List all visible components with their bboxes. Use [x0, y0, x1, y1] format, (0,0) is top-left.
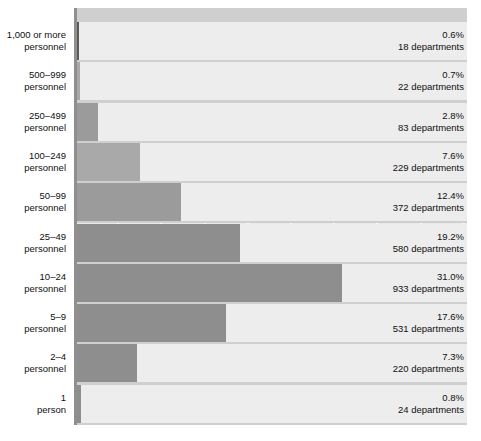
value-departments: 83 departments	[398, 122, 464, 134]
value-departments: 372 departments	[393, 202, 464, 214]
bar-row: 5–9personnel17.6%531 departments	[0, 304, 481, 342]
category-label-line2: personnel	[24, 283, 66, 295]
value-label: 0.7%22 departments	[398, 62, 464, 100]
bar-row: 10–24personnel31.0%933 departments	[0, 264, 481, 302]
category-label-line2: personnel	[24, 323, 66, 335]
category-label-line1: 25–49	[40, 231, 66, 243]
category-label: 1,000 or morepersonnel	[0, 22, 66, 60]
value-departments: 531 departments	[393, 323, 464, 335]
row-band	[74, 423, 467, 425]
value-label: 0.8%24 departments	[398, 385, 464, 423]
bar	[74, 103, 98, 141]
bar-row: 100–249personnel7.6%229 departments	[0, 143, 481, 181]
category-label-line2: personnel	[24, 363, 66, 375]
bar-row: 2–4personnel7.3%220 departments	[0, 344, 481, 382]
bar-row: 250–499personnel2.8%83 departments	[0, 103, 481, 141]
row-band	[74, 8, 467, 22]
value-departments: 933 departments	[393, 283, 464, 295]
bar	[74, 224, 240, 262]
category-label: 1person	[0, 385, 66, 423]
value-percent: 0.7%	[442, 69, 464, 81]
bar	[74, 344, 137, 382]
value-percent: 0.8%	[442, 392, 464, 404]
category-label-line1: 1	[61, 392, 66, 404]
bar-row: 1person0.8%24 departments	[0, 385, 481, 423]
category-label-line2: personnel	[24, 122, 66, 134]
y-axis-line	[74, 8, 77, 425]
value-label: 7.3%220 departments	[393, 344, 464, 382]
category-label-line1: 1,000 or more	[7, 29, 66, 41]
value-label: 7.6%229 departments	[393, 143, 464, 181]
value-label: 2.8%83 departments	[398, 103, 464, 141]
bar	[74, 264, 342, 302]
category-label-line2: personnel	[24, 81, 66, 93]
value-label: 31.0%933 departments	[393, 264, 464, 302]
category-label: 500–999personnel	[0, 62, 66, 100]
category-label-line1: 500–999	[29, 69, 66, 81]
value-percent: 2.8%	[442, 110, 464, 122]
category-label-line2: personnel	[24, 243, 66, 255]
category-label-line1: 250–499	[29, 110, 66, 122]
value-percent: 31.0%	[437, 271, 464, 283]
category-label-line1: 10–24	[40, 271, 66, 283]
category-label-line1: 50–99	[40, 190, 66, 202]
category-label-line2: personnel	[24, 202, 66, 214]
bar	[74, 183, 181, 221]
value-label: 12.4%372 departments	[393, 183, 464, 221]
category-label-line2: personnel	[24, 162, 66, 174]
value-departments: 580 departments	[393, 243, 464, 255]
value-label: 0.6%18 departments	[398, 22, 464, 60]
bar	[74, 143, 140, 181]
bar-row: 50–99personnel12.4%372 departments	[0, 183, 481, 221]
category-label: 50–99personnel	[0, 183, 66, 221]
category-label: 250–499personnel	[0, 103, 66, 141]
category-label: 10–24personnel	[0, 264, 66, 302]
category-label-line2: personnel	[24, 41, 66, 53]
bar-row: 500–999personnel0.7%22 departments	[0, 62, 481, 100]
category-label-line1: 2–4	[50, 351, 66, 363]
category-label-line1: 100–249	[29, 150, 66, 162]
value-percent: 19.2%	[437, 231, 464, 243]
value-percent: 7.6%	[442, 150, 464, 162]
category-label: 2–4personnel	[0, 344, 66, 382]
category-label-line1: 5–9	[50, 311, 66, 323]
category-label: 5–9personnel	[0, 304, 66, 342]
bar-row: 1,000 or morepersonnel0.6%18 departments	[0, 22, 481, 60]
value-departments: 220 departments	[393, 363, 464, 375]
bar	[74, 304, 226, 342]
bar-row: 25–49personnel19.2%580 departments	[0, 224, 481, 262]
value-label: 19.2%580 departments	[393, 224, 464, 262]
category-label-line2: person	[37, 404, 66, 416]
value-departments: 229 departments	[393, 162, 464, 174]
value-percent: 12.4%	[437, 190, 464, 202]
category-label: 100–249personnel	[0, 143, 66, 181]
value-departments: 18 departments	[398, 41, 464, 53]
bar-chart: 1,000 or morepersonnel0.6%18 departments…	[0, 0, 481, 441]
value-departments: 22 departments	[398, 81, 464, 93]
value-departments: 24 departments	[398, 404, 464, 416]
value-label: 17.6%531 departments	[393, 304, 464, 342]
value-percent: 0.6%	[442, 29, 464, 41]
value-percent: 7.3%	[442, 351, 464, 363]
category-label: 25–49personnel	[0, 224, 66, 262]
value-percent: 17.6%	[437, 311, 464, 323]
